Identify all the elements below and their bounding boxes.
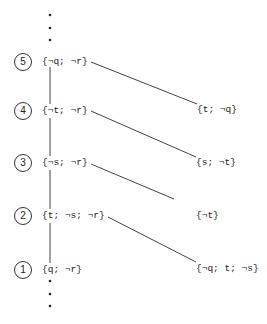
node-left-2: {t; ¬s; ¬r} xyxy=(42,211,105,221)
node-left-5: {¬q; ¬r} xyxy=(42,57,88,67)
ellipsis-dot-bottom-2 xyxy=(49,293,52,296)
edge-5-right xyxy=(91,62,197,104)
node-right-4: {s; ¬t} xyxy=(196,158,236,168)
level-number-5: 5 xyxy=(14,53,32,71)
level-number-4: 4 xyxy=(14,102,32,120)
ellipsis-dot-bottom-3 xyxy=(49,305,52,308)
level-number-1: 1 xyxy=(14,261,32,279)
ellipsis-dot-top-2 xyxy=(49,27,52,30)
level-number-2: 2 xyxy=(14,207,32,225)
node-right-3: {¬t} xyxy=(196,211,219,221)
edge-3-right xyxy=(91,164,174,199)
ellipsis-dot-top-1 xyxy=(49,14,52,17)
ellipsis-dot-top-3 xyxy=(49,39,52,42)
ellipsis-dot-bottom-1 xyxy=(49,280,52,283)
node-right-5: {t; ¬q} xyxy=(197,105,237,115)
edge-2-right xyxy=(108,217,196,262)
edge-4-right xyxy=(91,111,196,157)
node-right-2: {¬q; t; ¬s} xyxy=(196,264,259,274)
level-number-3: 3 xyxy=(14,154,32,172)
node-left-4: {¬t; ¬r} xyxy=(42,106,88,116)
node-left-3: {¬s; ¬r} xyxy=(42,158,88,168)
node-left-1: {q; ¬r} xyxy=(42,265,82,275)
